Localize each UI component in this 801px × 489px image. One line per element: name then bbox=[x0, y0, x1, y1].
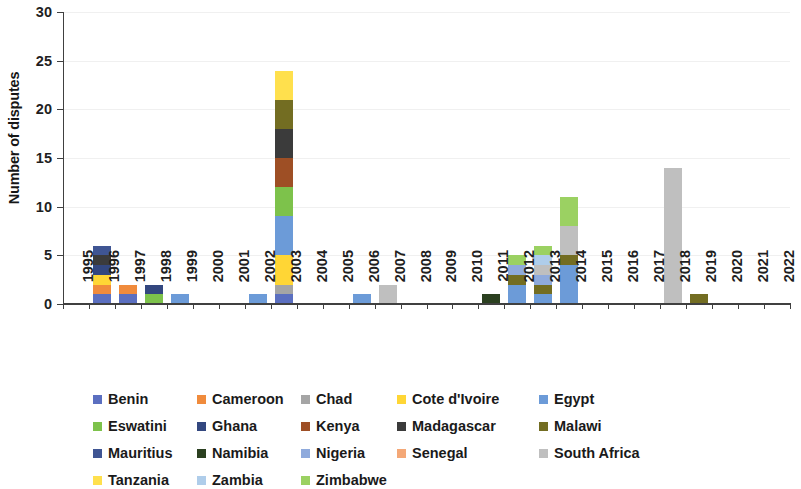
x-tick-label: 1995 bbox=[81, 250, 96, 312]
legend-label: Chad bbox=[316, 392, 352, 407]
x-tick-label: 2005 bbox=[341, 250, 356, 312]
x-tick-label: 2009 bbox=[444, 250, 459, 312]
legend-item[interactable]: Cote d'Ivoire bbox=[397, 392, 539, 407]
x-tick-label: 2008 bbox=[419, 250, 434, 312]
legend-swatch-icon bbox=[197, 422, 206, 431]
legend-item[interactable]: Malawi bbox=[539, 419, 679, 434]
x-tick-label: 1999 bbox=[185, 250, 200, 312]
x-tick-label: 2017 bbox=[652, 250, 667, 312]
legend-item[interactable]: Tanzania bbox=[93, 473, 197, 488]
legend-label: Benin bbox=[108, 392, 148, 407]
legend-item[interactable]: South Africa bbox=[539, 446, 679, 461]
legend-label: Malawi bbox=[554, 419, 602, 434]
x-tick-label: 1998 bbox=[159, 250, 174, 312]
x-tick-label: 2002 bbox=[263, 250, 278, 312]
legend-item[interactable]: Chad bbox=[301, 392, 397, 407]
x-tick-label: 2021 bbox=[756, 250, 771, 312]
legend-swatch-icon bbox=[301, 422, 310, 431]
legend-label: Cameroon bbox=[212, 392, 284, 407]
legend-label: Namibia bbox=[212, 446, 268, 461]
legend-swatch-icon bbox=[197, 395, 206, 404]
legend-item[interactable]: Cameroon bbox=[197, 392, 301, 407]
legend-label: Zambia bbox=[212, 473, 263, 488]
x-tick-label: 2003 bbox=[289, 250, 304, 312]
legend-swatch-icon bbox=[397, 422, 406, 431]
legend-swatch-icon bbox=[301, 395, 310, 404]
x-tick-label: 2016 bbox=[626, 250, 641, 312]
x-tick-label: 2020 bbox=[730, 250, 745, 312]
legend-item[interactable]: Senegal bbox=[397, 446, 539, 461]
legend-swatch-icon bbox=[197, 476, 206, 485]
legend-label: Madagascar bbox=[412, 419, 496, 434]
x-tick-label: 2004 bbox=[315, 250, 330, 312]
legend-label: Egypt bbox=[554, 392, 594, 407]
x-tick-label: 2022 bbox=[782, 250, 797, 312]
legend-label: Zimbabwe bbox=[316, 473, 387, 488]
x-tick-label: 2015 bbox=[600, 250, 615, 312]
legend-swatch-icon bbox=[93, 476, 102, 485]
legend-swatch-icon bbox=[539, 449, 548, 458]
legend: BeninCameroonChadCote d'IvoireEgyptEswat… bbox=[93, 386, 753, 489]
x-tick-label: 1997 bbox=[133, 250, 148, 312]
x-tick-label: 2012 bbox=[522, 250, 537, 312]
x-tick-label: 2010 bbox=[470, 250, 485, 312]
legend-item[interactable]: Egypt bbox=[539, 392, 679, 407]
x-tick-label: 2013 bbox=[548, 250, 563, 312]
legend-item[interactable]: Nigeria bbox=[301, 446, 397, 461]
legend-swatch-icon bbox=[301, 449, 310, 458]
legend-item[interactable]: Kenya bbox=[301, 419, 397, 434]
legend-item[interactable]: Eswatini bbox=[93, 419, 197, 434]
legend-item[interactable]: Zambia bbox=[197, 473, 301, 488]
legend-swatch-icon bbox=[93, 449, 102, 458]
legend-swatch-icon bbox=[197, 449, 206, 458]
legend-label: Senegal bbox=[412, 446, 468, 461]
legend-swatch-icon bbox=[397, 449, 406, 458]
legend-item[interactable]: Benin bbox=[93, 392, 197, 407]
x-tick-label: 2019 bbox=[704, 250, 719, 312]
legend-item[interactable]: Mauritius bbox=[93, 446, 197, 461]
x-tick-label: 2006 bbox=[367, 250, 382, 312]
x-tick-label: 2007 bbox=[393, 250, 408, 312]
legend-swatch-icon bbox=[301, 476, 310, 485]
x-tick-label: 2014 bbox=[574, 250, 589, 312]
legend-label: South Africa bbox=[554, 446, 640, 461]
legend-swatch-icon bbox=[93, 395, 102, 404]
legend-label: Nigeria bbox=[316, 446, 365, 461]
legend-swatch-icon bbox=[93, 422, 102, 431]
legend-label: Kenya bbox=[316, 419, 360, 434]
x-tick-label: 2018 bbox=[678, 250, 693, 312]
legend-item[interactable]: Namibia bbox=[197, 446, 301, 461]
legend-label: Cote d'Ivoire bbox=[412, 392, 499, 407]
x-tick-label: 2011 bbox=[496, 250, 511, 312]
legend-swatch-icon bbox=[539, 395, 548, 404]
legend-item[interactable]: Zimbabwe bbox=[301, 473, 397, 488]
legend-label: Mauritius bbox=[108, 446, 172, 461]
legend-swatch-icon bbox=[397, 395, 406, 404]
x-tick-label: 2000 bbox=[211, 250, 226, 312]
legend-label: Tanzania bbox=[108, 473, 169, 488]
legend-item[interactable]: Madagascar bbox=[397, 419, 539, 434]
legend-label: Eswatini bbox=[108, 419, 167, 434]
x-tick-label: 1996 bbox=[107, 250, 122, 312]
x-tick-label: 2001 bbox=[237, 250, 252, 312]
legend-item[interactable]: Ghana bbox=[197, 419, 301, 434]
legend-label: Ghana bbox=[212, 419, 257, 434]
legend-swatch-icon bbox=[539, 422, 548, 431]
